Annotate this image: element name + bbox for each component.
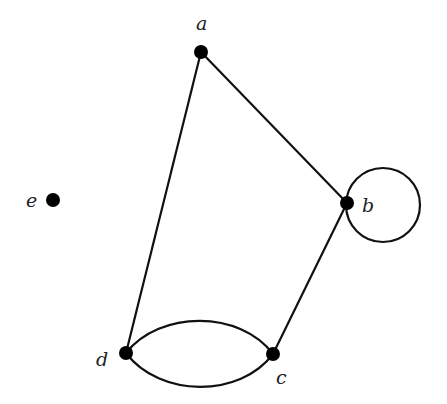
label-b: b — [362, 194, 374, 216]
vertex-e — [46, 193, 60, 207]
label-a: a — [196, 12, 207, 34]
label-e: e — [26, 189, 37, 211]
vertex-a — [194, 45, 208, 59]
edge-b-c — [273, 203, 347, 354]
edge-d-c-lower — [126, 353, 273, 387]
loop-b — [346, 168, 420, 242]
graph-svg: a b c d e — [0, 0, 447, 404]
label-d: d — [96, 348, 108, 370]
graph-diagram: a b c d e — [0, 0, 447, 404]
edge-a-b — [201, 52, 347, 203]
vertex-b — [340, 196, 354, 210]
edge-d-c-upper — [126, 321, 273, 354]
vertex-d — [119, 346, 133, 360]
label-c: c — [276, 366, 287, 388]
vertex-c — [266, 347, 280, 361]
edge-a-d — [126, 52, 201, 353]
